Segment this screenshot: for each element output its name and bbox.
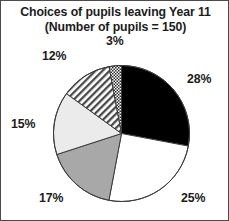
slice-label-28: 28%: [187, 72, 211, 86]
slice-label-25: 25%: [181, 191, 205, 205]
slice-label-12: 12%: [42, 49, 66, 63]
slice-label-15: 15%: [11, 117, 35, 131]
pie-slice-25[interactable]: [109, 134, 188, 202]
pie-chart-figure: Choices of pupils leaving Year 11 (Numbe…: [0, 0, 229, 221]
slice-label-17: 17%: [39, 191, 63, 205]
pie-slice-28[interactable]: [122, 66, 190, 147]
slice-label-3: 3%: [106, 34, 124, 48]
